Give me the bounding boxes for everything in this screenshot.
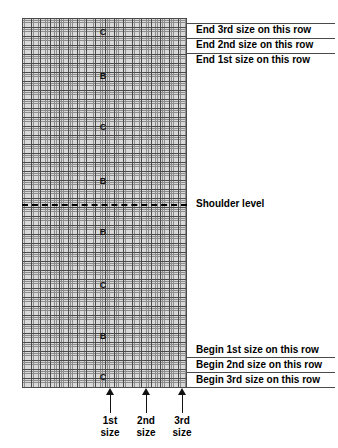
grid-letter-marker: B [96, 71, 110, 81]
size-arrow-3rd [178, 388, 187, 414]
arrow-stem [182, 394, 183, 413]
grid-letter-marker: B [96, 227, 110, 237]
arrow-stem [110, 394, 111, 413]
size-caption-3rd-line2: size [159, 427, 205, 439]
grid-letter-marker: B [96, 331, 110, 341]
size-arrow-2nd [142, 388, 151, 414]
grid-letter-marker: C [96, 280, 110, 290]
size-caption-3rd: 3rd size [159, 415, 205, 439]
size-caption-3rd-line1: 3rd [159, 415, 205, 427]
arrow-stem [146, 394, 147, 413]
grid-letter-marker: C [96, 27, 110, 37]
chart-canvas: C B C B B C B C End 3rd size on this row… [0, 0, 338, 448]
callout-end-1st-size: End 1st size on this row [196, 54, 310, 66]
leader-line-begin-1st [187, 357, 335, 358]
callout-shoulder-level: Shoulder level [196, 198, 264, 210]
callout-end-2nd-size: End 2nd size on this row [196, 39, 313, 51]
size-arrow-1st [106, 388, 115, 414]
leader-line-begin-3rd [187, 387, 335, 388]
callout-begin-2nd-size: Begin 2nd size on this row [196, 359, 322, 371]
grid-letter-marker: B [96, 176, 110, 186]
callout-end-3rd-size: End 3rd size on this row [196, 24, 311, 36]
callout-begin-3rd-size: Begin 3rd size on this row [196, 374, 320, 386]
leader-line-begin-2nd [187, 372, 335, 373]
grid-letter-marker: C [96, 372, 110, 382]
shoulder-level-line [22, 204, 187, 206]
grid-letter-marker: C [96, 122, 110, 132]
callout-begin-1st-size: Begin 1st size on this row [196, 344, 319, 356]
